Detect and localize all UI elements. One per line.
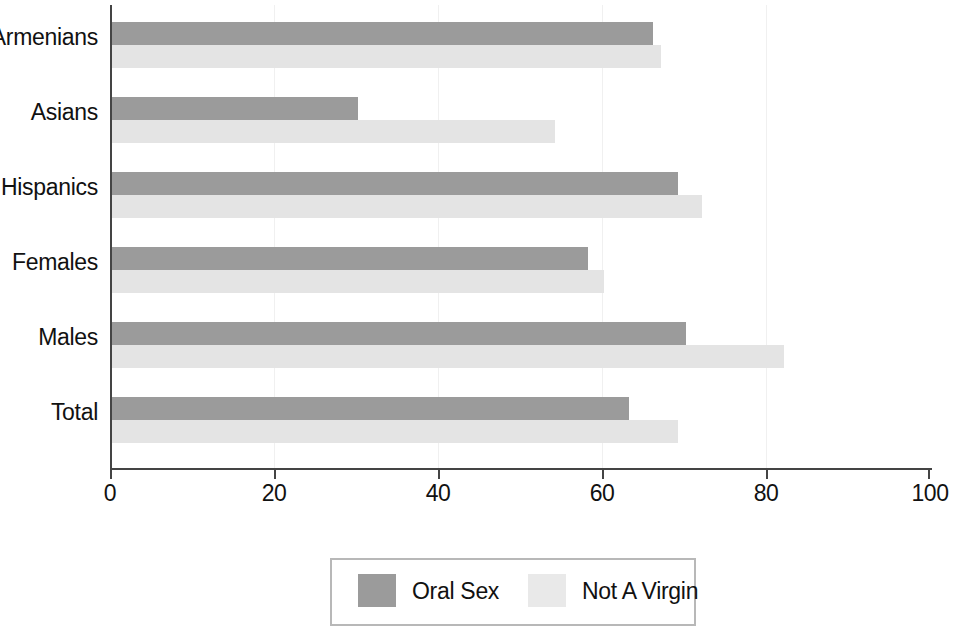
- category-label: Armenians: [0, 24, 98, 50]
- category-label: Asians: [0, 99, 98, 125]
- bar: [112, 345, 784, 368]
- plot-area: 020406080100: [110, 5, 930, 470]
- x-axis-tick: [110, 468, 112, 479]
- legend-swatch-icon: [358, 574, 396, 607]
- legend-label: Oral Sex: [412, 576, 499, 606]
- x-axis-tick-label: 40: [408, 479, 468, 507]
- legend-entry-not-a-virgin: Not A Virgin: [528, 574, 698, 607]
- x-axis-tick: [602, 468, 604, 479]
- x-axis-tick: [274, 468, 276, 479]
- bar: [112, 120, 555, 143]
- x-axis-tick-label: 60: [572, 479, 632, 507]
- bar: [112, 22, 653, 45]
- bar: [112, 322, 686, 345]
- x-axis-line: [110, 468, 932, 470]
- x-axis-tick: [438, 468, 440, 479]
- x-axis-tick-label: 80: [736, 479, 796, 507]
- category-label: Hispanics: [0, 174, 98, 200]
- bar: [112, 420, 678, 443]
- x-axis-tick-label: 20: [244, 479, 304, 507]
- category-label: Total: [0, 399, 98, 425]
- bar: [112, 172, 678, 195]
- bar-chart: Armenians Asians Hispanics Females Males…: [0, 0, 955, 628]
- bar: [112, 195, 702, 218]
- bar: [112, 45, 661, 68]
- x-axis-tick-label: 100: [900, 479, 955, 507]
- category-label: Females: [0, 249, 98, 275]
- x-axis-tick-label: 0: [80, 479, 140, 507]
- category-label: Males: [0, 324, 98, 350]
- x-axis-tick: [928, 468, 930, 479]
- bar: [112, 247, 588, 270]
- gridline: [766, 5, 767, 468]
- legend-entry-oral-sex: Oral Sex: [358, 574, 499, 607]
- bar: [112, 97, 358, 120]
- x-axis-tick: [766, 468, 768, 479]
- chart-legend: Oral Sex Not A Virgin: [330, 558, 696, 626]
- bar: [112, 270, 604, 293]
- legend-swatch-icon: [528, 574, 566, 607]
- bar: [112, 397, 629, 420]
- legend-label: Not A Virgin: [582, 576, 698, 606]
